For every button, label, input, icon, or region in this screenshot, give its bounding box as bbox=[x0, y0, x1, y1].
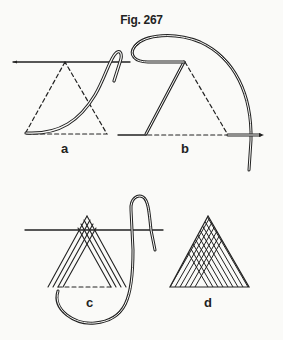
panel-d-drawing bbox=[150, 165, 265, 287]
panel-a-drawing bbox=[13, 52, 130, 134]
panel-label-c: c bbox=[86, 295, 93, 310]
panel-label-a: a bbox=[61, 141, 68, 156]
panel-b-drawing bbox=[118, 36, 264, 170]
panel-label-d: d bbox=[204, 295, 212, 310]
panel-c-drawing bbox=[25, 196, 163, 323]
panel-label-b: b bbox=[181, 141, 189, 156]
figure-illustration bbox=[0, 0, 283, 340]
